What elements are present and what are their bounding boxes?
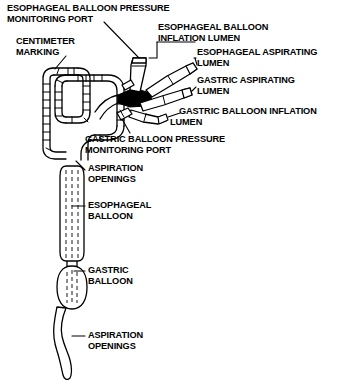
label-gastric-balloon-inflation-lumen: GASTRIC BALLOON INFLATION LUMEN	[170, 106, 317, 128]
leader-esophageal-pressure-port	[104, 22, 139, 58]
label-esophageal-balloon-pressure-monitoring-port: ESOPHAGEAL BALLOON PRESSURE MONITORING P…	[7, 3, 170, 25]
leader-gastric-aspirating	[192, 87, 196, 91]
gastric-balloon-pressure-port-connector	[117, 108, 132, 120]
label-aspiration-openings-lower: ASPIRATION OPENINGS	[88, 330, 143, 352]
label-esophageal-balloon: ESOPHAGEAL BALLOON	[88, 200, 151, 222]
label-gastric-balloon-pressure-monitoring-port: GASTRIC BALLOON PRESSURE MONITORING PORT	[85, 134, 225, 156]
gastric-balloon-inflation-lumen-connector	[129, 110, 168, 124]
label-gastric-aspirating-lumen: GASTRIC ASPIRATING LUMEN	[197, 75, 295, 97]
label-esophageal-balloon-inflation-lumen: ESOPHAGEAL BALLOON INFLATION LUMEN	[158, 22, 268, 44]
diagram-canvas: ESOPHAGEAL BALLOON PRESSURE MONITORING P…	[0, 0, 347, 388]
label-aspiration-openings-upper: ASPIRATION OPENINGS	[88, 163, 143, 185]
leader-esoph-inflation-bracket	[149, 42, 157, 58]
distal-tip	[54, 307, 72, 379]
esophageal-balloon-pressure-port-connector	[130, 58, 146, 92]
label-gastric-balloon: GASTRIC BALLOON	[88, 265, 133, 287]
label-centimeter-marking: CENTIMETER MARKING	[16, 36, 75, 58]
label-esophageal-aspirating-lumen: ESOPHAGEAL ASPIRATING LUMEN	[197, 47, 317, 69]
